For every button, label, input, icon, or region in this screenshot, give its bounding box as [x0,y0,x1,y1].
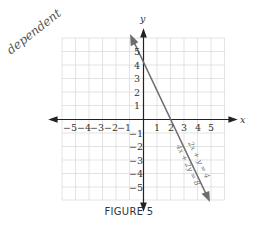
x-axis-arrow-icon [229,117,236,122]
figure-caption: FIGURE 5 [0,206,258,217]
line-arrow-top-icon [131,36,137,45]
y-axis-arrow-icon [141,30,146,37]
axes [50,30,236,210]
x-axis-left-arrow-icon [50,117,57,122]
coordinate-plane [0,0,258,234]
line-arrow-bottom-icon [203,192,209,200]
